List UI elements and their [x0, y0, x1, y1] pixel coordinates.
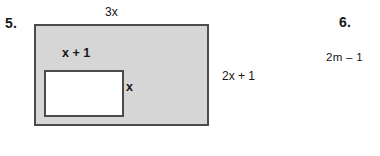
problem-number-6: 6.	[339, 15, 351, 29]
problem-6-expression: 2m – 1	[326, 52, 363, 64]
outer-rectangle-width-label: 3x	[105, 6, 118, 18]
inner-rectangle	[44, 70, 124, 117]
inner-rectangle-height-label: x	[126, 81, 133, 94]
inner-rectangle-width-label: x + 1	[62, 47, 90, 60]
problem-number-5: 5.	[5, 16, 17, 30]
worksheet-page: 5. 3x 2x + 1 x + 1 x 6. 2m – 1	[0, 0, 380, 156]
outer-rectangle-height-label: 2x + 1	[222, 70, 255, 82]
